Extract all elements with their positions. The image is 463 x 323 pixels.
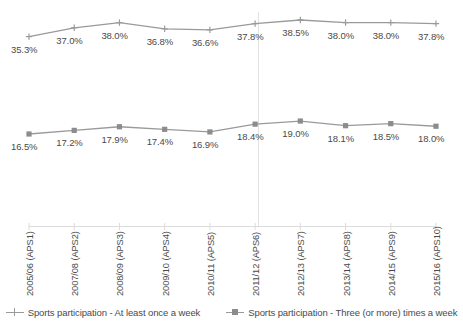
data-label: 16.9% xyxy=(192,140,218,150)
data-label: 36.8% xyxy=(147,37,173,47)
legend-item-three-or-more-times-a-week[interactable]: Sports participation - Three (or more) t… xyxy=(226,307,457,318)
data-label: 17.2% xyxy=(56,138,82,148)
data-label: 38.0% xyxy=(373,31,399,41)
data-label: 37.8% xyxy=(418,32,444,42)
data-label: 18.5% xyxy=(373,132,399,142)
legend-label: Sports participation - Three (or more) t… xyxy=(248,307,457,318)
x-axis-tick-label: 2008/09 (APS3) xyxy=(115,231,125,296)
data-label: 37.0% xyxy=(56,36,82,46)
data-label: 17.9% xyxy=(101,135,127,145)
data-label: 16.5% xyxy=(11,142,37,152)
data-label: 35.3% xyxy=(11,45,37,55)
data-label: 18.4% xyxy=(237,132,263,142)
data-label: 38.0% xyxy=(328,31,354,41)
x-axis-tick-label: 2012/13 (APS7) xyxy=(296,231,306,296)
legend-label: Sports participation - At least once a w… xyxy=(28,307,201,318)
x-axis-tick-label: 2013/14 (APS8) xyxy=(342,231,352,296)
data-label: 18.1% xyxy=(328,134,354,144)
x-axis-tick-label: 2014/15 (APS9) xyxy=(387,231,397,296)
x-axis-tick-label: 2011/12 (APS6) xyxy=(251,232,261,296)
data-label: 19.0% xyxy=(282,129,308,139)
square-marker-icon xyxy=(226,307,244,317)
data-label: 38.0% xyxy=(101,31,127,41)
data-label: 18.0% xyxy=(418,134,444,144)
x-axis-tick-label: 2010/11 (APS5) xyxy=(206,232,216,296)
data-label: 17.4% xyxy=(147,137,173,147)
legend-item-at-least-once-a-week[interactable]: Sports participation - At least once a w… xyxy=(6,307,201,318)
data-label: 37.8% xyxy=(237,32,263,42)
plus-marker-icon xyxy=(6,307,24,317)
chart-legend: Sports participation - At least once a w… xyxy=(0,303,463,321)
x-axis-tick-label: 2009/10 (APS4) xyxy=(161,231,171,296)
data-label: 38.5% xyxy=(282,28,308,38)
data-label: 36.6% xyxy=(192,38,218,48)
x-axis-tick-label: 2007/08 (APS2) xyxy=(70,231,80,296)
chart-container: 35.3%37.0%38.0%36.8%36.6%37.8%38.5%38.0%… xyxy=(0,0,463,323)
x-axis-tick-label: 2005/06 (APS1) xyxy=(25,231,35,296)
x-axis-tick-label: 2015/16 (APS10) xyxy=(432,226,442,296)
